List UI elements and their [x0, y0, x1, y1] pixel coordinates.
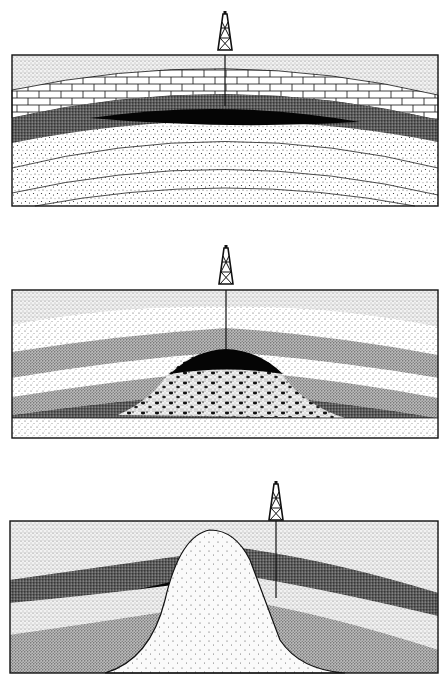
derrick-icon [219, 245, 233, 284]
derrick-icon [218, 11, 232, 50]
panel-anticline [12, 11, 438, 206]
panel-salt-dome [10, 481, 438, 673]
figure-canvas [0, 0, 446, 680]
panel-reef [12, 245, 438, 438]
derrick-icon [269, 481, 283, 520]
